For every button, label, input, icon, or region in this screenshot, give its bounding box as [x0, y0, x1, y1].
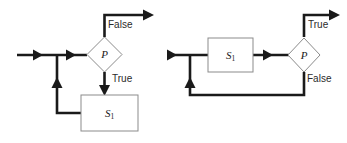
false-exit-arrowhead-icon [143, 10, 154, 21]
repeat-until-flowchart: S1 P True False [167, 10, 340, 96]
true-entry-arrowhead-icon [99, 85, 110, 96]
entry-arrowhead-icon [33, 50, 43, 61]
feedback-path-left [57, 55, 81, 113]
true-branch-label-right: True [308, 19, 329, 30]
false-branch-label-right: False [307, 73, 332, 84]
decision-label-left: P [100, 48, 108, 60]
true-exit-arrowhead-icon [329, 10, 340, 21]
process-label-subscript-left: 1 [110, 111, 114, 120]
process-to-decision-arrowhead-icon [263, 50, 273, 61]
process-label-subscript-right: 1 [231, 54, 235, 63]
false-branch-label-left: False [108, 19, 133, 30]
while-loop-flowchart: P S1 False True [17, 10, 154, 132]
feedback-arrowhead-icon [52, 77, 63, 88]
flowchart-figure: P S1 False True [0, 0, 347, 143]
feedback-arrowhead-right-icon [185, 77, 196, 88]
entry-arrowhead-right-icon [167, 50, 177, 61]
figure-canvas: P S1 False True [0, 0, 347, 143]
decision-label-right: P [300, 49, 308, 61]
true-branch-label-left: True [112, 73, 133, 84]
decision-input-arrowhead-icon [66, 50, 76, 61]
